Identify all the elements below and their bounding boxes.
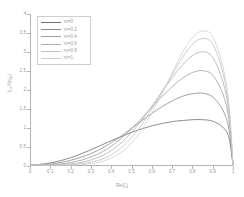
y-tick-label: 2.5 [2, 69, 26, 74]
x-tick-mark [192, 166, 193, 169]
x-tick-mark [71, 166, 72, 169]
x-tick-mark [111, 166, 112, 169]
y-tick-label: 3.5 [2, 31, 26, 36]
y-tick-label: 4 [2, 12, 26, 17]
y-tick-label: 1 [2, 126, 26, 131]
x-tick-label: 0.4 [101, 170, 121, 175]
x-tick-mark [50, 166, 51, 169]
legend-item[interactable]: m=0.6 [41, 41, 87, 48]
x-tick-mark [30, 166, 31, 169]
legend-label: m=0.2 [64, 28, 77, 33]
y-axis-label: Il,m/I(ql,0) [7, 55, 13, 111]
legend-item[interactable]: m=0.2 [41, 26, 87, 33]
y-tick-label: 0.5 [2, 145, 26, 150]
x-axis-label: Re(ζl) [92, 183, 152, 189]
legend-label: m=0 [64, 20, 73, 25]
x-tick-label: 0.6 [142, 170, 162, 175]
x-tick-mark [132, 166, 133, 169]
legend-label: m=0.8 [64, 49, 77, 54]
x-tick-label: 1 [223, 170, 243, 175]
legend-swatch [41, 36, 61, 37]
x-tick-mark [152, 166, 153, 169]
x-tick-mark [91, 166, 92, 169]
x-tick-mark [233, 166, 234, 169]
x-tick-mark [213, 166, 214, 169]
x-tick-label: 0.8 [182, 170, 202, 175]
legend: m=0m=0.2m=0.4m=0.6m=0.8m=1 [37, 16, 91, 65]
legend-swatch [41, 51, 61, 52]
legend-swatch [41, 58, 61, 59]
y-tick-label: 2 [2, 88, 26, 93]
legend-item[interactable]: m=0.8 [41, 48, 87, 55]
x-tick-label: 0.1 [40, 170, 60, 175]
legend-item[interactable]: m=1 [41, 55, 87, 62]
x-tick-label: 0 [20, 170, 40, 175]
legend-label: m=1 [64, 56, 73, 61]
legend-swatch [41, 22, 61, 23]
y-tick-label: 3 [2, 50, 26, 55]
x-tick-label: 0.7 [162, 170, 182, 175]
series-line [31, 71, 233, 166]
x-tick-label: 0.9 [203, 170, 223, 175]
legend-swatch [41, 29, 61, 30]
legend-swatch [41, 44, 61, 45]
x-tick-label: 0.2 [61, 170, 81, 175]
y-tick-label: 0 [2, 164, 26, 169]
y-tick-label: 1.5 [2, 107, 26, 112]
legend-item[interactable]: m=0.4 [41, 33, 87, 40]
legend-label: m=0.6 [64, 42, 77, 47]
x-tick-mark [172, 166, 173, 169]
series-line [31, 52, 233, 165]
x-tick-label: 0.5 [122, 170, 142, 175]
x-tick-label: 0.3 [81, 170, 101, 175]
legend-label: m=0.4 [64, 35, 77, 40]
series-line [31, 93, 233, 165]
legend-item[interactable]: m=0 [41, 19, 87, 26]
chart-figure: 4 3.5 3 2.5 2 1.5 1 0.5 0 0 0.1 0.2 0.3 … [0, 0, 244, 197]
